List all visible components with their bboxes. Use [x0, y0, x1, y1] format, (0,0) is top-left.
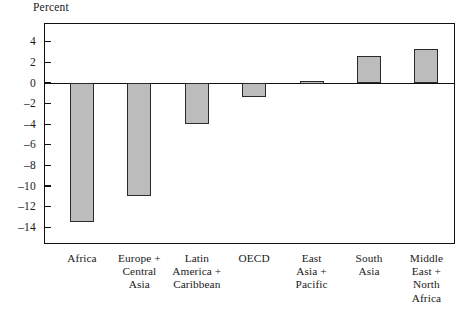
x-axis-tick-label-line: America + [161, 265, 233, 278]
y-axis-tick-label: –4 [2, 118, 36, 130]
bar-chart: Percent 420–2–4–6–8–10–12–14 AfricaEurop… [0, 0, 475, 314]
x-axis-tick-label-line: North [390, 278, 462, 291]
bar [70, 83, 94, 222]
plot-frame [44, 23, 455, 244]
bar [127, 83, 151, 196]
y-axis-tick-label: 2 [2, 56, 36, 68]
y-axis-tick-label: –8 [2, 159, 36, 171]
x-axis-tick-label-line: Africa [390, 292, 462, 305]
x-axis-tick-label-line: Caribbean [161, 278, 233, 291]
y-axis-tick [44, 124, 51, 125]
y-axis-tick [44, 62, 51, 63]
y-axis-tick-label: –6 [2, 138, 36, 150]
y-axis-tick [44, 206, 51, 207]
x-axis-tick-label-line: Middle [390, 252, 462, 265]
y-axis-tick [44, 144, 51, 145]
y-axis-tick-label: –2 [2, 97, 36, 109]
y-axis-title: Percent [33, 1, 69, 14]
bar [357, 56, 381, 83]
x-axis-tick-label-line: East + [390, 265, 462, 278]
bar [242, 83, 266, 97]
y-axis-tick-label: –14 [2, 221, 36, 233]
y-axis-tick [44, 103, 51, 104]
y-axis-tick-label: 4 [2, 35, 36, 47]
y-axis-tick-label: –10 [2, 180, 36, 192]
x-axis-tick-label-line: Pacific [276, 278, 348, 291]
y-axis-tick [44, 41, 51, 42]
y-axis-tick-label: –12 [2, 200, 36, 212]
bar [300, 81, 324, 84]
y-axis-tick [44, 165, 51, 166]
y-axis-tick [44, 82, 51, 83]
y-axis-tick [44, 227, 51, 228]
y-axis-tick [44, 185, 51, 186]
y-axis-tick-label: 0 [2, 77, 36, 89]
bar [185, 83, 209, 124]
bar [414, 49, 438, 83]
x-axis-tick-label: MiddleEast +NorthAfrica [390, 252, 462, 305]
